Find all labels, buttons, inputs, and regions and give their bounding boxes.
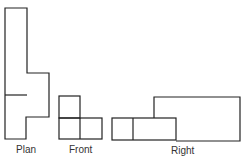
front-label: Front	[69, 144, 92, 155]
orthographic-views-diagram	[0, 0, 242, 157]
plan-view	[5, 8, 49, 139]
right-label: Right	[171, 145, 194, 156]
right-view	[112, 97, 240, 141]
plan-label: Plan	[16, 144, 36, 155]
front-view	[59, 96, 102, 139]
